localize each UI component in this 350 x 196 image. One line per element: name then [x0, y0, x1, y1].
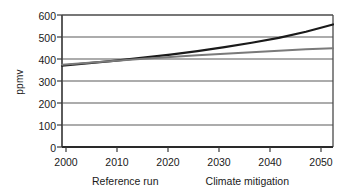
chart-container: ppmv 600 500 400 300 200 100 0 2000 2010…	[0, 0, 350, 196]
chart-legend: Reference run Climate mitigation	[0, 176, 350, 187]
legend-item-climate-mitigation: Climate mitigation	[175, 176, 289, 187]
legend-label: Climate mitigation	[206, 176, 289, 187]
legend-label: Reference run	[92, 176, 159, 187]
plot-area	[0, 0, 350, 196]
legend-item-reference-run: Reference run	[61, 176, 159, 187]
